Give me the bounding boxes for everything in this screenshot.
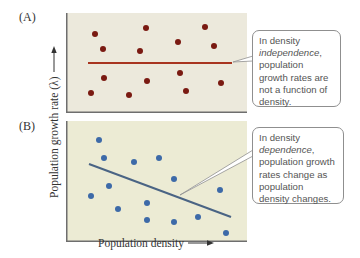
callout-a-line: population (259, 59, 334, 71)
callout-density-independence: In density independence, population grow… (252, 30, 341, 107)
callout-b-line: In density (259, 132, 337, 144)
callout-b-line: rates change as (259, 169, 337, 181)
callout-a-line: In density (259, 35, 334, 47)
arrow-up-icon (50, 46, 58, 72)
arrow-right-icon (188, 239, 214, 247)
callout-b-line: density changes. (259, 193, 337, 205)
y-axis-label: Population growth rate (λ) (47, 45, 61, 198)
callout-a-line: not a function of (259, 84, 334, 96)
callout-a-line: growth rates are (259, 72, 334, 84)
callout-a-italic-line: independence, (259, 47, 334, 59)
y-axis-label-text: Population growth rate (λ) (48, 76, 60, 198)
callout-a-line: density. (259, 96, 334, 108)
callout-b-line: population growth (259, 156, 337, 168)
callout-a-italic-term: independence (259, 47, 319, 58)
callout-a-pointer (233, 56, 253, 62)
x-axis-label: Population density (98, 237, 214, 249)
callout-b-italic-line: dependence, (259, 144, 337, 156)
callout-b-pointer (180, 150, 253, 195)
callout-b-italic-term: dependence (259, 144, 312, 155)
x-axis-label-text: Population density (98, 237, 184, 249)
callout-density-dependence: In density dependence, population growth… (252, 127, 344, 204)
callout-b-line: population (259, 181, 337, 193)
callout-b-comma: , (312, 144, 315, 155)
callout-a-comma: , (319, 47, 322, 58)
